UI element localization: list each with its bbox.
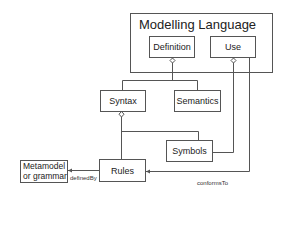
use-node: Use bbox=[210, 36, 256, 58]
use-aggregation-diamond bbox=[231, 58, 236, 63]
defined-by-arrowhead bbox=[68, 169, 72, 173]
syntax-node: Syntax bbox=[100, 90, 146, 112]
conforms-to-arrowhead bbox=[146, 170, 150, 174]
metamodel-line1: Metamodel bbox=[23, 161, 65, 171]
syntax-aggregation-diamond bbox=[119, 112, 124, 118]
definition-aggregation-diamond bbox=[170, 58, 175, 63]
conforms-to-label: conformsTo bbox=[197, 180, 228, 186]
semantics-node: Semantics bbox=[174, 90, 221, 112]
metamodel-node: Metamodel or grammar bbox=[20, 160, 68, 183]
metamodel-line2: or grammar bbox=[23, 171, 67, 181]
rules-node: Rules bbox=[99, 159, 146, 182]
definition-node: Definition bbox=[149, 36, 195, 58]
symbols-node: Symbols bbox=[166, 140, 213, 162]
defined-by-label: definedBy bbox=[70, 175, 97, 181]
